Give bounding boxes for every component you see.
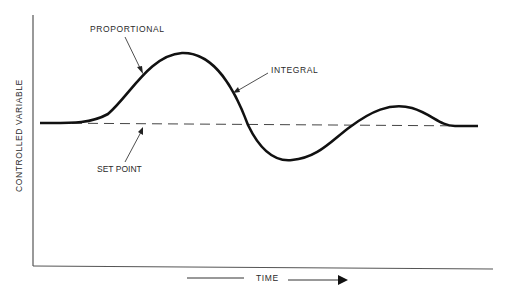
integral-pointer [237,73,268,91]
set-point-pointer [125,132,141,162]
x-axis [33,266,493,269]
set-point-line [40,123,478,126]
response-curve [40,53,478,160]
time-arrowhead-icon [338,275,348,285]
set-point-arrowhead-icon [138,127,143,135]
y-axis-label: CONTROLLED VARIABLE [14,79,24,192]
proportional-label: PROPORTIONAL [90,24,165,34]
x-axis-label: TIME [256,273,279,283]
control-response-diagram: PROPORTIONAL INTEGRAL SET POINT CONTROLL… [0,0,506,296]
integral-label: INTEGRAL [271,65,318,75]
proportional-pointer [125,37,141,70]
proportional-arrowhead-icon [137,66,143,74]
set-point-label: SET POINT [97,164,142,174]
integral-arrowhead-icon [233,87,240,93]
